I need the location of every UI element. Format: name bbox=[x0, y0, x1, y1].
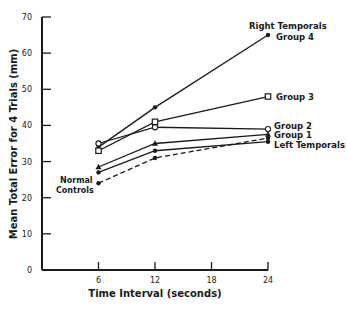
data-point-filled-circle bbox=[96, 170, 100, 174]
legend-left-temporals: Left Temporals bbox=[274, 140, 345, 150]
data-point-filled-circle bbox=[266, 33, 270, 37]
y-axis-title: Mean Total Error for 4 Trials (mm) bbox=[8, 49, 19, 240]
line-chart: 0102030405060706121824Time Interval (sec… bbox=[0, 0, 347, 312]
legend-group4: Group 4 bbox=[276, 32, 314, 42]
y-tick-label: 0 bbox=[27, 266, 32, 275]
x-axis-title: Time Interval (seconds) bbox=[88, 288, 221, 299]
series-group-4 bbox=[96, 33, 270, 149]
series-line bbox=[99, 97, 269, 151]
y-tick-label: 20 bbox=[22, 194, 32, 203]
series-line bbox=[99, 35, 269, 147]
y-tick-label: 10 bbox=[22, 230, 32, 239]
data-point-open-circle bbox=[152, 125, 157, 130]
data-point-filled-circle bbox=[153, 156, 157, 160]
x-tick-label: 6 bbox=[96, 276, 101, 285]
annotation-controls: Controls bbox=[56, 186, 94, 195]
y-tick-label: 40 bbox=[22, 121, 32, 130]
data-point-open-circle bbox=[96, 141, 101, 146]
annotation-normal: Normal bbox=[60, 176, 93, 185]
y-tick-label: 30 bbox=[22, 158, 32, 167]
annotation-right-temporals: Right Temporals bbox=[249, 21, 327, 31]
x-tick-label: 18 bbox=[206, 276, 216, 285]
series-line bbox=[99, 138, 269, 183]
x-tick-label: 24 bbox=[263, 276, 273, 285]
data-point-open-square bbox=[152, 119, 157, 124]
series-layer bbox=[96, 33, 272, 186]
data-point-filled-circle bbox=[96, 181, 100, 185]
data-point-filled-circle bbox=[153, 149, 157, 153]
data-point-filled-circle bbox=[266, 136, 270, 140]
data-point-filled-circle bbox=[153, 105, 157, 109]
series-group-3 bbox=[96, 94, 271, 154]
x-tick-label: 12 bbox=[150, 276, 160, 285]
y-tick-label: 50 bbox=[22, 85, 32, 94]
data-point-open-square bbox=[96, 148, 101, 153]
data-point-open-circle bbox=[265, 126, 270, 131]
y-tick-label: 70 bbox=[22, 13, 32, 22]
y-tick-label: 60 bbox=[22, 49, 32, 58]
data-point-open-square bbox=[265, 94, 270, 99]
legend-group1: Group 1 bbox=[274, 130, 312, 140]
data-point-filled-triangle bbox=[265, 131, 271, 136]
legend-group3: Group 3 bbox=[276, 92, 314, 102]
